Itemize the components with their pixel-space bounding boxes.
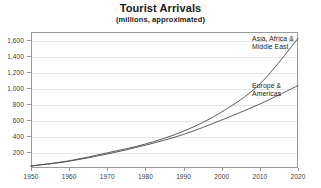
x-tick-label: 2020 bbox=[291, 173, 306, 180]
series-line bbox=[31, 38, 298, 166]
x-tick-label: 1990 bbox=[176, 173, 191, 180]
series-label-europe-americas: Europe & Americas bbox=[252, 82, 281, 98]
x-tick-label: 2000 bbox=[214, 173, 229, 180]
x-tick-mark bbox=[260, 168, 261, 171]
y-tick-label: 400 bbox=[13, 133, 24, 140]
y-tick-label: 1,200 bbox=[7, 69, 24, 76]
x-tick-label: 1970 bbox=[100, 173, 115, 180]
y-tick-label: 1,400 bbox=[7, 53, 24, 60]
x-tick-mark bbox=[222, 168, 223, 171]
x-tick-label: 1960 bbox=[62, 173, 77, 180]
x-tick-label: 1950 bbox=[24, 173, 39, 180]
x-tick-mark bbox=[69, 168, 70, 171]
x-tick-label: 2010 bbox=[252, 173, 267, 180]
x-tick-mark bbox=[31, 168, 32, 171]
y-tick-label: 600 bbox=[13, 117, 24, 124]
y-tick-label: 200 bbox=[13, 149, 24, 156]
y-tick-label: 800 bbox=[13, 101, 24, 108]
series-label-asia-africa-middle-east: Asia, Africa & Middle East bbox=[252, 35, 294, 51]
page-title: Tourist Arrivals bbox=[0, 2, 321, 15]
x-tick-label: 1980 bbox=[138, 173, 153, 180]
y-tick-label: 1,600 bbox=[7, 37, 24, 44]
series-lines bbox=[31, 32, 298, 168]
tourist-arrivals-chart: Tourist Arrivals (millions, approximated… bbox=[0, 0, 321, 188]
chart-title-block: Tourist Arrivals (millions, approximated… bbox=[0, 2, 321, 25]
x-tick-mark bbox=[184, 168, 185, 171]
y-tick-label: 1,000 bbox=[7, 85, 24, 92]
x-tick-mark bbox=[107, 168, 108, 171]
x-tick-mark bbox=[298, 168, 299, 171]
chart-subtitle: (millions, approximated) bbox=[0, 15, 321, 25]
x-axis: 19501960197019801990200020102020 bbox=[31, 168, 298, 188]
x-tick-mark bbox=[145, 168, 146, 171]
y-axis: 2004006008001,0001,2001,4001,600 bbox=[0, 32, 31, 168]
